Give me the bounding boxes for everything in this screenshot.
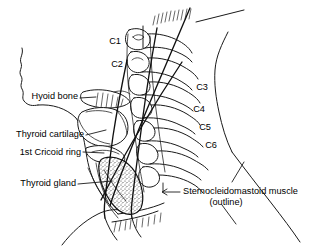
label-hyoid-bone: Hyoid bone: [32, 91, 78, 101]
c6-process: [157, 151, 208, 170]
vertebra-c7: [139, 166, 160, 187]
label-thyroid-cartilage: Thyroid cartilage: [16, 129, 84, 139]
vertebra-c1: [125, 29, 150, 50]
occiput-contour: [196, 10, 244, 22]
anatomy-illustration: Hyoid bone Thyroid cartilage 1st Cricoid…: [0, 0, 311, 252]
leader-scm-lower: [222, 205, 236, 224]
thyroid-cartilage: [78, 108, 128, 147]
label-vertebra-c3: C3: [196, 82, 208, 92]
vertebra-c6: [137, 143, 158, 164]
label-vertebra-c5: C5: [199, 122, 211, 132]
label-vertebra-c4: C4: [193, 104, 205, 114]
label-scm-line1: Sternocleidomastoid muscle: [183, 186, 298, 196]
chest-contour-left: [62, 210, 120, 245]
vertebra-c2-facet: [132, 58, 143, 60]
label-cricoid-ring: 1st Cricoid ring: [20, 147, 81, 157]
c5-process-lower: [147, 141, 198, 157]
sternal-notch-hatching: [114, 213, 161, 232]
label-vertebra-c1: C1: [109, 36, 121, 46]
c4-process-lower: [144, 118, 195, 134]
label-scm-line2: (outline): [209, 197, 242, 207]
vertebra-c2: [127, 51, 149, 72]
label-vertebra-c2: C2: [111, 59, 123, 69]
vertebra-c5: [134, 120, 155, 141]
posterior-neck-contour: [215, 32, 232, 152]
leader-scm-upper: [232, 162, 244, 182]
c5-process: [154, 128, 203, 147]
vertebra-c1-detail: [133, 35, 144, 40]
label-vertebra-c6: C6: [205, 140, 217, 150]
hyoid-bone: [81, 90, 130, 108]
anatomy-figure: Hyoid bone Thyroid cartilage 1st Cricoid…: [0, 0, 311, 252]
occiput-hatching: [153, 9, 191, 25]
label-thyroid-gland: Thyroid gland: [20, 178, 76, 188]
